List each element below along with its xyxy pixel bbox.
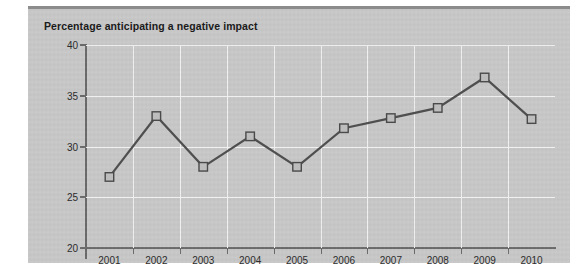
data-point-marker xyxy=(387,114,396,123)
chart-title: Percentage anticipating a negative impac… xyxy=(44,20,258,32)
data-point-marker xyxy=(340,124,349,133)
chart-panel: Percentage anticipating a negative impac… xyxy=(28,9,570,263)
data-point-marker xyxy=(527,115,536,124)
data-point-marker xyxy=(480,73,489,82)
series-line xyxy=(109,77,531,176)
data-point-marker xyxy=(152,112,161,121)
data-point-marker xyxy=(434,104,443,113)
series-markers xyxy=(105,73,536,181)
chart-figure: Percentage anticipating a negative impac… xyxy=(0,0,586,277)
data-point-marker xyxy=(246,132,255,141)
data-point-marker xyxy=(199,163,208,172)
data-point-marker xyxy=(105,173,114,182)
data-point-marker xyxy=(293,163,302,172)
series-layer xyxy=(28,9,570,263)
